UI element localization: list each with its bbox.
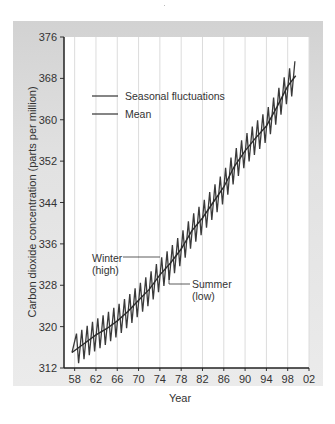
legend-mean-label: Mean [125, 108, 151, 120]
x-tick-label: 86 [218, 373, 230, 385]
summer-label: Summer [192, 278, 232, 290]
legend-seasonal-label: Seasonal fluctuations [125, 90, 225, 102]
winter-label: Winter [92, 252, 123, 264]
winter-sublabel: (high) [92, 264, 119, 276]
x-tick-label: 02 [303, 373, 315, 385]
x-tick-label: 78 [175, 373, 187, 385]
y-tick-label: 328 [39, 279, 57, 291]
summer-sublabel: (low) [192, 290, 215, 302]
x-tick-label: 98 [282, 373, 294, 385]
co2-chart: 312320328336344352360368376 586266707478… [0, 0, 335, 424]
y-axis-label: Carbon dioxide concentration (parts per … [26, 86, 38, 317]
x-tick-label: 82 [196, 373, 208, 385]
y-tick-label: 320 [39, 321, 57, 333]
x-axis-ticks: 586266707478828690949802 [69, 368, 316, 385]
y-tick-label: 376 [39, 31, 57, 43]
x-tick-label: 90 [239, 373, 251, 385]
x-axis-label: Year [169, 392, 192, 404]
x-tick-label: 74 [154, 373, 166, 385]
y-tick-label: 360 [39, 114, 57, 126]
y-tick-label: 336 [39, 238, 57, 250]
x-tick-label: 66 [111, 373, 123, 385]
plot-area [64, 37, 309, 368]
y-tick-label: 352 [39, 155, 57, 167]
x-tick-label: 58 [69, 373, 81, 385]
y-tick-label: 344 [39, 197, 57, 209]
x-tick-label: 62 [90, 373, 102, 385]
y-axis-ticks: 312320328336344352360368376 [39, 31, 64, 374]
y-tick-label: 312 [39, 362, 57, 374]
x-tick-label: 70 [132, 373, 144, 385]
y-tick-label: 368 [39, 72, 57, 84]
x-tick-label: 94 [260, 373, 272, 385]
